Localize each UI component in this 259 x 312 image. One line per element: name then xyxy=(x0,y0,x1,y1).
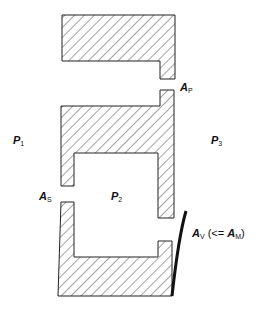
label-p1: P1 xyxy=(13,134,24,147)
label-p2: P2 xyxy=(111,190,122,203)
label-as: AS xyxy=(39,190,52,203)
chamber-diagram xyxy=(0,0,259,312)
label-ap: AP xyxy=(180,81,193,94)
top-wall xyxy=(62,15,175,79)
label-p3: P3 xyxy=(211,134,222,147)
valve-line xyxy=(172,211,186,296)
label-av: AV (<= AM) xyxy=(192,227,245,240)
chamber-lower-wall xyxy=(58,202,172,296)
